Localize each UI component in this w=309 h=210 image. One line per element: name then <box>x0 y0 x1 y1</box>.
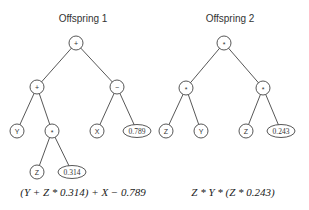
node-label: Y <box>199 128 204 135</box>
node-label: − <box>115 84 119 91</box>
tree-expression: Z * Y * (Z * 0.243) <box>191 186 275 199</box>
node-label: Z <box>35 169 40 176</box>
node-label: X <box>95 128 100 135</box>
tree-node-var: Y <box>194 124 208 138</box>
node-label: + <box>35 84 39 91</box>
tree-expression: (Y + Z * 0.314) + X − 0.789 <box>20 186 146 199</box>
tree-edge <box>76 43 117 87</box>
node-label: * <box>185 86 188 93</box>
tree-node-var: Z <box>30 165 44 179</box>
tree-node-const: 0.789 <box>123 125 151 138</box>
node-label: + <box>74 40 78 47</box>
tree-node-op: + <box>30 80 44 94</box>
tree-node-var: Z <box>159 124 173 138</box>
node-label: 0.243 <box>273 127 290 136</box>
node-label: 0.789 <box>129 127 146 136</box>
tree-node-op: * <box>45 124 59 138</box>
tree-title: Offspring 2 <box>206 13 255 24</box>
tree-node-const: 0.243 <box>267 125 295 138</box>
tree-node-const: 0.314 <box>58 166 86 179</box>
tree-node-op: + <box>69 36 83 50</box>
tree-node-op: * <box>256 81 270 95</box>
tree-edge <box>224 43 263 88</box>
node-label: Y <box>15 128 20 135</box>
node-label: 0.314 <box>64 168 81 177</box>
tree-node-var: Y <box>10 124 24 138</box>
tree-node-var: X <box>90 124 104 138</box>
tree-node-var: Z <box>239 124 253 138</box>
node-label: * <box>51 129 54 136</box>
tree-node-op: * <box>179 81 193 95</box>
genetic-programming-trees-diagram: Offspring 1++−Y*X0.789Z0.314(Y + Z * 0.3… <box>0 0 309 210</box>
node-label: Z <box>244 128 249 135</box>
tree-offspring-1: Offspring 1++−Y*X0.789Z0.314(Y + Z * 0.3… <box>10 13 151 199</box>
node-label: * <box>262 86 265 93</box>
tree-node-op: − <box>110 80 124 94</box>
tree-title: Offspring 1 <box>59 13 108 24</box>
tree-node-op: * <box>217 36 231 50</box>
tree-edge <box>186 43 224 88</box>
tree-edge <box>37 43 76 87</box>
node-label: * <box>223 41 226 48</box>
node-label: Z <box>164 128 169 135</box>
tree-offspring-2: Offspring 2***ZYZ0.243Z * Y * (Z * 0.243… <box>159 13 295 199</box>
